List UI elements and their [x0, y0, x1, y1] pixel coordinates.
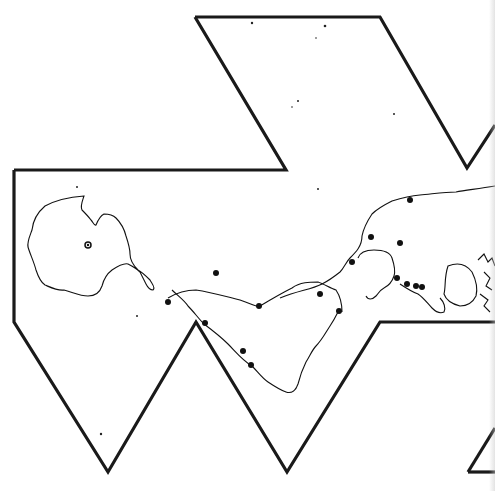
hudson-bay [358, 250, 395, 299]
location-marker [202, 320, 208, 326]
icosahedron-net-outline [14, 17, 495, 472]
location-marker [336, 308, 342, 314]
south-pole-marker [87, 244, 89, 246]
location-marker [368, 234, 374, 240]
location-marker [349, 259, 355, 265]
location-markers [85, 197, 425, 368]
coastlines [28, 186, 495, 393]
location-marker [419, 284, 425, 290]
greenland [444, 264, 477, 306]
location-marker [213, 270, 219, 276]
location-marker [256, 303, 262, 309]
page-fold-shadow [489, 0, 495, 491]
location-marker [165, 299, 171, 305]
location-marker [404, 281, 410, 287]
location-marker [413, 283, 419, 289]
location-marker [407, 197, 413, 203]
net-edge [14, 17, 286, 170]
net-edge [14, 170, 495, 472]
dymaxion-world-map [0, 0, 495, 491]
location-marker [317, 291, 323, 297]
location-marker [240, 348, 246, 354]
location-marker [394, 275, 400, 281]
location-marker [248, 362, 254, 368]
arctic-north-coast [280, 186, 495, 298]
location-marker [397, 240, 403, 246]
